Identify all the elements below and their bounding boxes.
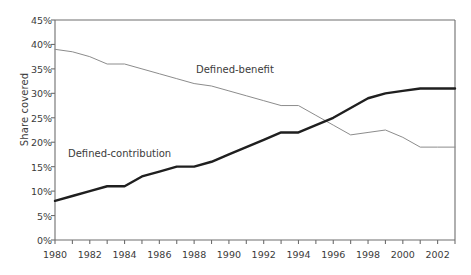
x-axis-tick-label: 2002 [426,249,450,260]
x-axis-tick-label: 1990 [217,249,241,260]
x-axis-tick-label-group: 1980198219841986198819901992199419961998… [0,0,471,275]
chart-container: Share covered 0%5%10%15%20%25%30%35%40%4… [0,0,471,275]
x-axis-tick-label: 1988 [182,249,206,260]
x-axis-tick-label: 1986 [147,249,171,260]
x-axis-tick-label: 1980 [43,249,67,260]
x-axis-tick-label: 1992 [252,249,276,260]
x-axis-tick-label: 1996 [321,249,345,260]
x-axis-tick-label: 2000 [391,249,415,260]
x-axis-tick-label: 1994 [286,249,310,260]
series-label-defined-contribution: Defined-contribution [68,148,171,159]
series-label-defined-benefit: Defined-benefit [196,64,274,75]
x-axis-tick-label: 1984 [112,249,136,260]
x-axis-tick-label: 1998 [356,249,380,260]
x-axis-tick-label: 1982 [78,249,102,260]
